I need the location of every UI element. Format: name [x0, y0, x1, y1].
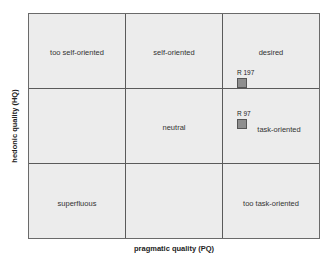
vertical-divider-1 — [125, 14, 126, 238]
point-label-r97: R 97 — [237, 110, 251, 117]
cell-too-task-oriented: too task-oriented — [243, 199, 299, 208]
cell-task-oriented: task-oriented — [257, 125, 300, 134]
y-axis-label: hedonic quality (HQ) — [10, 89, 19, 162]
cell-self-oriented: self-oriented — [153, 48, 194, 57]
point-label-r197: R 197 — [237, 69, 254, 76]
data-point-r197 — [237, 78, 247, 88]
cell-too-self-oriented: too self-oriented — [50, 48, 104, 57]
x-axis-label: pragmatic quality (PQ) — [134, 244, 214, 253]
vertical-divider-2 — [222, 14, 223, 238]
horizontal-divider-1 — [29, 88, 319, 89]
cell-superfluous: superfluous — [58, 199, 97, 208]
cell-desired: desired — [259, 48, 284, 57]
data-point-r97 — [237, 119, 247, 129]
horizontal-divider-2 — [29, 163, 319, 164]
cell-neutral: neutral — [163, 123, 186, 132]
quadrant-grid: too self-oriented self-oriented desired … — [28, 13, 320, 239]
